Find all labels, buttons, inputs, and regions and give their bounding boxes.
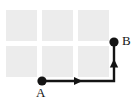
point-b-dot <box>109 37 118 46</box>
route-polyline <box>42 42 114 81</box>
arrowhead-right-icon <box>74 77 83 85</box>
grid-path-diagram: A B <box>0 0 137 105</box>
point-a-label: A <box>36 86 45 99</box>
point-b-label: B <box>122 34 131 47</box>
route-path-layer <box>0 0 137 105</box>
arrowhead-up-icon <box>110 59 118 68</box>
